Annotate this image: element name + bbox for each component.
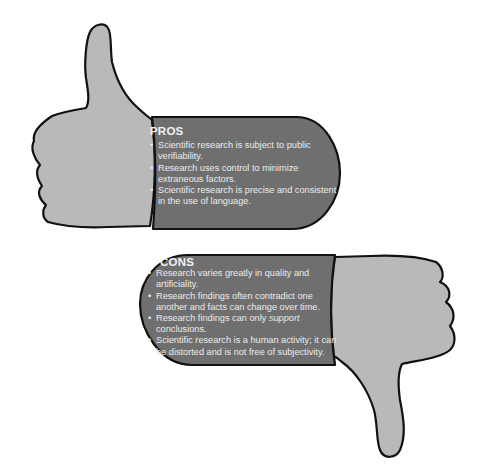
cons-title: CONS	[160, 257, 338, 268]
cons-item: Research varies greatly in quality and a…	[148, 268, 338, 290]
cons-section: CONS Research varies greatly in quality …	[148, 257, 338, 358]
pros-list: Scientific research is subject to public…	[150, 140, 340, 207]
thumbs-down-icon	[329, 256, 454, 457]
pros-title: PROS	[150, 126, 340, 137]
pros-item: Scientific research is subject to public…	[150, 140, 340, 162]
cons-item: Scientific research is a human activity;…	[148, 335, 338, 357]
cons-item: Research findings can only support concl…	[148, 313, 338, 335]
cons-item: Research findings often contradict one a…	[148, 291, 338, 313]
thumbs-up-icon	[32, 3, 154, 227]
cons-list: Research varies greatly in quality and a…	[148, 268, 338, 358]
pros-item: Research uses control to minimize extran…	[150, 163, 340, 185]
pros-section: PROS Scientific research is subject to p…	[150, 126, 340, 207]
pros-item: Scientific research is precise and consi…	[150, 185, 340, 207]
emphasis-word: support	[269, 313, 300, 323]
